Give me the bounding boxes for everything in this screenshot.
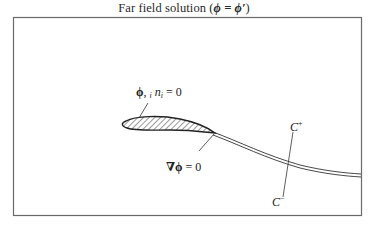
- airfoil: [122, 117, 215, 133]
- far-field-boundary: [14, 18, 362, 216]
- wake-sheet-upper: [213, 132, 361, 174]
- gradient-condition-label: ∇ϕ = 0: [166, 161, 201, 173]
- cut-lower-label: C−: [272, 195, 285, 208]
- surface-condition-label: ϕ, i ni = 0: [136, 86, 182, 100]
- leader-gradient: [199, 134, 214, 151]
- cut-line: [283, 132, 293, 197]
- far-field-diagram: [0, 0, 368, 233]
- cut-upper-label: C+: [290, 120, 303, 133]
- leader-surface: [139, 103, 148, 118]
